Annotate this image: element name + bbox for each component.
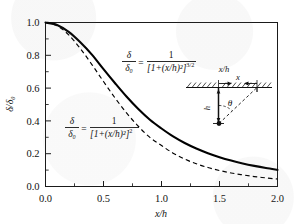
eq2-equals-sign: =	[81, 124, 86, 134]
eq2-rhs-numerator: 1	[112, 116, 117, 126]
inset-top-label: x/h	[218, 64, 230, 74]
x-tick-label: 1.5	[213, 193, 226, 204]
y-axis-label: δ/δ₀	[4, 96, 15, 112]
x-tick-label: 2.0	[271, 193, 284, 204]
x-tick-label: 1.0	[155, 193, 168, 204]
eq2-lhs-denominator: δ₀	[68, 129, 76, 139]
y-tick-label: 1.0	[26, 17, 39, 28]
y-tick-label: 0.4	[26, 116, 40, 127]
eq1-rhs-numerator: 1	[169, 50, 174, 60]
chart-svg: 0.00.51.01.52.00.00.20.40.60.81.0 δ/δ₀ x…	[0, 0, 298, 224]
inset-x-label: x	[235, 72, 240, 82]
y-axis-label-text: δ/δ₀	[4, 96, 15, 112]
eq1-equals-sign: =	[138, 58, 143, 68]
y-tick-label: 0.8	[26, 50, 39, 61]
figure-background	[0, 0, 298, 224]
eq1-lhs-numerator: δ	[127, 50, 132, 60]
eq2-lhs-numerator: δ	[70, 116, 75, 126]
chart-figure: 0.00.51.01.52.00.00.20.40.60.81.0 δ/δ₀ x…	[0, 0, 298, 224]
x-axis-label-text: x/h	[154, 208, 167, 219]
inset-theta-label: θ	[228, 98, 233, 108]
x-tick-label: 0.0	[39, 193, 52, 204]
eq1-lhs-denominator: δ₀	[125, 63, 133, 73]
y-tick-label: 0.0	[26, 181, 39, 192]
y-tick-label: 0.2	[26, 148, 39, 159]
y-tick-label: 0.6	[26, 83, 39, 94]
inset-h-label: h	[202, 106, 212, 110]
eq2-rhs-denominator: [1+(x/h)²]2	[90, 127, 133, 140]
x-tick-label: 0.5	[97, 193, 110, 204]
